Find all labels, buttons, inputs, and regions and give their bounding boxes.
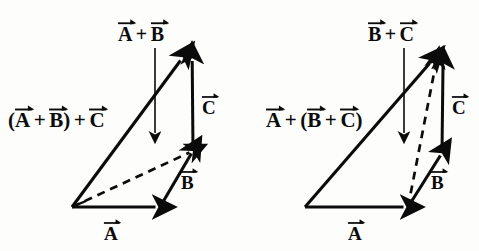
left-dashed-a-plus-b — [72, 153, 190, 208]
vector-a-glyph: A — [266, 104, 281, 131]
right-paren: ) — [356, 110, 363, 131]
right-label-c: C — [452, 92, 466, 117]
right-pointer-label: B + C — [368, 18, 414, 44]
vector-b-glyph: B — [431, 167, 444, 192]
plus-sign: + — [321, 110, 340, 131]
vector-a-glyph: A — [118, 18, 132, 44]
vector-c-glyph: C — [89, 104, 104, 131]
left-paren: ( — [300, 110, 307, 131]
vector-c-glyph: C — [340, 104, 355, 131]
vector-b-glyph: B — [307, 104, 321, 131]
vector-a-glyph: A — [15, 104, 30, 131]
vector-a-glyph: A — [104, 218, 118, 243]
left-resultant-vector — [72, 61, 181, 208]
vector-a-glyph: A — [348, 218, 362, 243]
vector-c-glyph: C — [202, 92, 216, 117]
left-label-a: A — [104, 218, 118, 243]
left-paren: ( — [8, 110, 15, 131]
plus-sign: + — [70, 110, 89, 131]
left-label-b: B — [181, 167, 194, 192]
figure-canvas: A + B ( A + B )+ C — [0, 0, 479, 251]
left-label-c: C — [202, 92, 216, 117]
plus-sign: + — [281, 110, 300, 131]
vector-b-glyph: B — [181, 167, 194, 192]
plus-sign: + — [132, 24, 150, 44]
vector-b-glyph: B — [49, 104, 63, 131]
left-vector-c — [192, 61, 193, 150]
vector-c-glyph: C — [400, 18, 414, 44]
vector-b-glyph: B — [368, 18, 381, 44]
plus-sign: + — [381, 24, 399, 44]
left-resultant-label: ( A + B )+ C — [8, 104, 105, 131]
vector-b-glyph: B — [151, 18, 164, 44]
right-label-a: A — [348, 218, 362, 243]
vector-c-glyph: C — [452, 92, 466, 117]
right-paren: ) — [63, 110, 70, 131]
right-resultant-label: A +( B + C ) — [266, 104, 363, 131]
right-vector-c — [442, 66, 443, 152]
right-label-b: B — [431, 167, 444, 192]
left-pointer-label: A + B — [118, 18, 164, 44]
plus-sign: + — [30, 110, 49, 131]
